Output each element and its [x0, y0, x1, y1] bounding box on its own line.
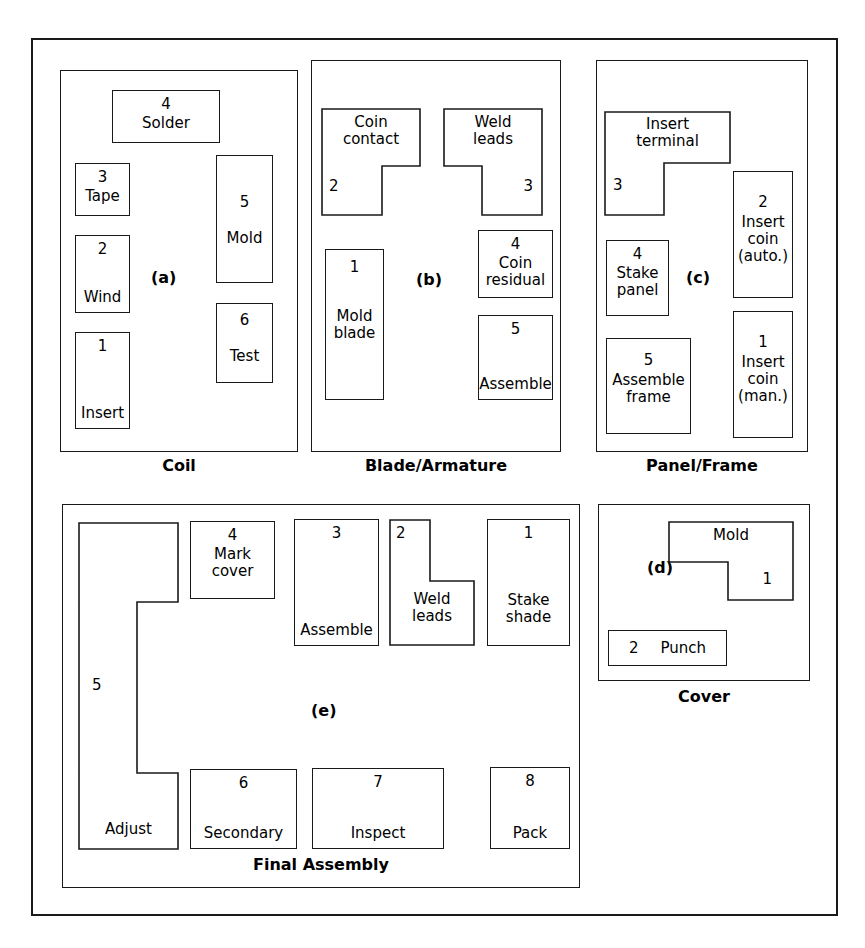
station-panel-insert-terminal[interactable]: Insert terminal 3: [604, 111, 731, 216]
station-name: Test: [217, 348, 272, 365]
station-number: 5: [92, 677, 132, 694]
station-number: 6: [217, 312, 272, 329]
station-final-stake-shade[interactable]: 1 Stake shade: [487, 519, 570, 646]
station-final-secondary[interactable]: 6 Secondary: [190, 769, 297, 849]
station-name: Insert terminal: [604, 116, 731, 150]
station-name: Insert: [76, 405, 129, 422]
station-number: 5: [479, 321, 552, 338]
station-number: 1: [488, 525, 569, 542]
department-letter-a: (a): [151, 270, 176, 286]
station-coil-wind[interactable]: 2 Wind: [75, 235, 130, 313]
station-name: Tape: [76, 188, 129, 205]
station-number: 3: [76, 169, 129, 186]
station-name: Weld leads: [443, 114, 543, 148]
station-cover-mold[interactable]: Mold 1: [668, 521, 794, 601]
station-number: 5: [607, 352, 690, 369]
station-number: 2: [629, 640, 639, 657]
figure-canvas: (a) 4 Solder 3 Tape 2 Wind 1 Insert 5 Mo…: [0, 0, 865, 948]
station-number: 2: [329, 178, 369, 195]
station-name: Assemble: [479, 376, 552, 393]
station-final-assemble[interactable]: 3 Assemble: [294, 519, 379, 646]
station-name: Punch: [660, 640, 706, 657]
department-caption-coil: Coil: [60, 458, 298, 474]
station-blade-assemble[interactable]: 5 Assemble: [478, 315, 553, 400]
station-cover-punch[interactable]: 2 Punch: [608, 630, 727, 666]
station-blade-mold-blade[interactable]: 1 Mold blade: [325, 249, 384, 400]
station-number: 4: [191, 527, 274, 544]
station-coil-mold[interactable]: 5 Mold: [216, 155, 273, 283]
station-name: Mold: [217, 230, 272, 247]
department-caption-panel-frame: Panel/Frame: [596, 458, 808, 474]
station-number: 1: [734, 334, 792, 351]
station-number: 3: [295, 525, 378, 542]
station-number: 1: [326, 259, 383, 276]
station-number: 4: [113, 96, 219, 113]
station-name: Wind: [76, 289, 129, 306]
station-number: 2: [734, 194, 792, 211]
station-name: Stake shade: [488, 592, 569, 626]
station-number: 3: [613, 177, 653, 194]
station-number: 6: [191, 775, 296, 792]
station-number: 8: [491, 773, 569, 790]
station-number: 4: [607, 246, 668, 263]
station-final-pack[interactable]: 8 Pack: [490, 767, 570, 849]
station-panel-assemble-frame[interactable]: 5 Assemble frame: [606, 338, 691, 434]
station-coil-tape[interactable]: 3 Tape: [75, 163, 130, 216]
station-panel-insert-coin-man[interactable]: 1 Insert coin (man.): [733, 311, 793, 438]
department-letter-c: (c): [686, 270, 710, 286]
station-number: 2: [76, 241, 129, 258]
station-number: 1: [76, 338, 129, 355]
department-caption-blade-armature: Blade/Armature: [311, 458, 561, 474]
station-name: Insert coin (man.): [734, 354, 792, 404]
station-name: Coin residual: [479, 255, 552, 289]
station-number: 3: [493, 178, 533, 195]
station-number: 5: [217, 194, 272, 211]
department-letter-b: (b): [416, 272, 442, 288]
station-name: Mold: [668, 527, 794, 544]
station-name: Mark cover: [191, 546, 274, 580]
station-final-adjust[interactable]: 5 Adjust: [78, 522, 179, 850]
station-number: 1: [742, 571, 772, 588]
station-name: Stake panel: [607, 265, 668, 299]
department-letter-e: (e): [311, 703, 336, 719]
station-name: Weld leads: [389, 591, 475, 625]
station-name: Assemble: [295, 622, 378, 639]
station-final-mark-cover[interactable]: 4 Mark cover: [190, 521, 275, 599]
station-name: Coin contact: [321, 114, 421, 148]
station-panel-insert-coin-auto[interactable]: 2 Insert coin (auto.): [733, 171, 793, 298]
station-blade-coin-residual[interactable]: 4 Coin residual: [478, 230, 553, 298]
station-final-inspect[interactable]: 7 Inspect: [312, 768, 444, 849]
station-number: 2: [396, 525, 426, 542]
station-coil-test[interactable]: 6 Test: [216, 303, 273, 383]
station-final-weld-leads[interactable]: 2 Weld leads: [389, 519, 475, 646]
station-number: 4: [479, 236, 552, 253]
station-blade-coin-contact[interactable]: Coin contact 2: [321, 108, 421, 216]
station-coil-insert[interactable]: 1 Insert: [75, 332, 130, 429]
station-name: Mold blade: [326, 308, 383, 342]
station-name: Pack: [491, 825, 569, 842]
department-caption-cover: Cover: [598, 689, 810, 705]
station-number: 7: [313, 774, 443, 791]
station-name: Solder: [113, 115, 219, 132]
station-blade-weld-leads[interactable]: Weld leads 3: [443, 108, 543, 216]
department-caption-final-assembly: Final Assembly: [62, 857, 580, 873]
station-coil-solder[interactable]: 4 Solder: [112, 90, 220, 143]
station-name: Assemble frame: [607, 372, 690, 406]
station-name: Adjust: [78, 821, 179, 838]
station-name: Insert coin (auto.): [734, 214, 792, 264]
station-panel-stake-panel[interactable]: 4 Stake panel: [606, 240, 669, 316]
station-name: Secondary: [191, 825, 296, 842]
station-name: Inspect: [313, 825, 443, 842]
